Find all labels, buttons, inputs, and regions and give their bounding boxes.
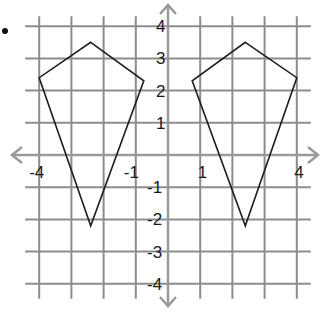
y-axis-label: -4 bbox=[147, 276, 162, 293]
right-kite bbox=[192, 42, 297, 226]
x-axis-label: -1 bbox=[124, 164, 139, 181]
y-axis-label: 4 bbox=[156, 18, 165, 35]
left-kite bbox=[39, 42, 144, 226]
x-axis-label: 4 bbox=[294, 164, 303, 181]
y-axis-label: -3 bbox=[147, 244, 162, 261]
coordinate-plane-diagram: -4-1144321-1-2-3-4 bbox=[0, 0, 326, 321]
y-axis-label: 2 bbox=[156, 83, 165, 100]
y-axis-label: 3 bbox=[156, 50, 165, 67]
y-axis-label: -2 bbox=[147, 211, 162, 228]
x-axis-label: -4 bbox=[29, 164, 44, 181]
x-axis-label: 1 bbox=[198, 164, 207, 181]
coordinate-grid bbox=[0, 0, 326, 321]
y-axis-label: 1 bbox=[156, 115, 165, 132]
y-axis-label: -1 bbox=[147, 179, 162, 196]
